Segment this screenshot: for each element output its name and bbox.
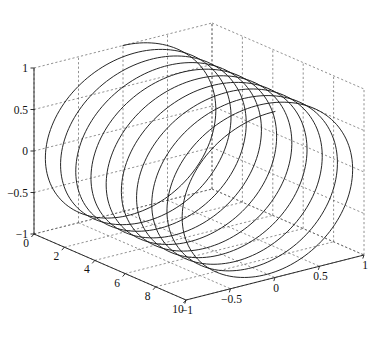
x-tick-mark bbox=[92, 260, 95, 263]
plot-canvas: −1−0.500.510246810−1−0.500.51 bbox=[0, 0, 381, 337]
x-tick-label: 4 bbox=[84, 263, 90, 275]
gridline-floor-y bbox=[212, 189, 364, 255]
z-tick-label: −0.5 bbox=[7, 187, 28, 199]
y-tick-label: −0.5 bbox=[221, 293, 242, 305]
y-tick-label: 0.5 bbox=[313, 270, 328, 282]
y-tick-label: 1 bbox=[362, 259, 368, 271]
plot-figure: −1−0.500.510246810−1−0.500.51 bbox=[0, 0, 381, 337]
gridline-wall-back-horizontal bbox=[212, 148, 364, 214]
y-tick-label: 0 bbox=[273, 282, 279, 294]
x-tick-label: 8 bbox=[145, 290, 151, 302]
gridline-wall-back-horizontal bbox=[212, 106, 364, 172]
gridline-wall-back-horizontal bbox=[212, 23, 364, 89]
helix-curve-path bbox=[45, 43, 352, 278]
helix-curve bbox=[45, 43, 352, 278]
z-tick-label: 0 bbox=[22, 145, 28, 157]
x-tick-label: 0 bbox=[23, 237, 29, 249]
gridline-floor-x bbox=[125, 229, 303, 274]
y-tick-label: −1 bbox=[181, 304, 193, 316]
x-tick-label: 6 bbox=[114, 277, 120, 289]
x-tick-mark bbox=[153, 287, 156, 290]
grid-floor bbox=[34, 189, 364, 300]
x-tick-label: 2 bbox=[54, 250, 60, 262]
z-tick-label: 1 bbox=[22, 62, 28, 74]
tick-marks bbox=[31, 68, 365, 304]
x-tick-mark bbox=[62, 247, 65, 250]
gridline-floor-y bbox=[79, 223, 231, 289]
grid-back-walls bbox=[34, 23, 364, 255]
x-tick-mark bbox=[123, 274, 126, 277]
z-tick-label: 0.5 bbox=[14, 104, 29, 116]
